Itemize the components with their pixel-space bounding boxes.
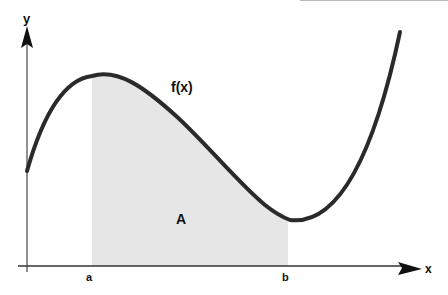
x-axis-arrow-icon [398, 262, 422, 275]
upper-bound-label: b [282, 272, 289, 283]
shaded-area-region [92, 74, 288, 266]
y-axis-label: y [23, 12, 30, 25]
lower-bound-label: a [86, 272, 92, 283]
x-axis-label: x [425, 263, 432, 275]
integral-diagram [0, 0, 448, 295]
function-label: f(x) [171, 80, 193, 94]
area-label: A [176, 212, 186, 226]
